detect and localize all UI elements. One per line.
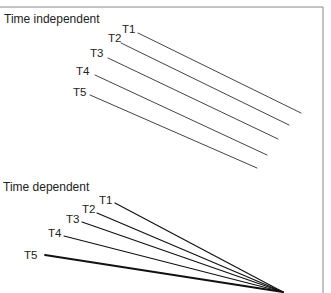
line-t3 [82,222,283,292]
line-t2 [97,213,283,292]
line-label-t4: T4 [76,65,89,77]
time-dependent-lines [45,203,283,292]
line-label-t4: T4 [48,227,61,239]
line-label-t2: T2 [82,203,95,215]
panel-title: Time dependent [3,180,89,194]
line-label-t1: T1 [122,23,135,35]
panel-title: Time independent [4,12,100,26]
line-label-t3: T3 [90,47,103,59]
time-independent-lines [90,33,301,168]
line-label-t5: T5 [24,249,37,261]
line-label-t5: T5 [73,86,86,98]
line-t4 [64,236,283,292]
line-label-t2: T2 [108,32,121,44]
line-t3 [108,58,278,139]
line-t4 [95,75,267,155]
line-t1 [138,33,301,113]
line-t5 [90,95,257,168]
diagram-canvas [0,0,331,293]
line-label-t1: T1 [99,194,112,206]
line-t2 [121,43,289,125]
line-label-t3: T3 [66,213,79,225]
